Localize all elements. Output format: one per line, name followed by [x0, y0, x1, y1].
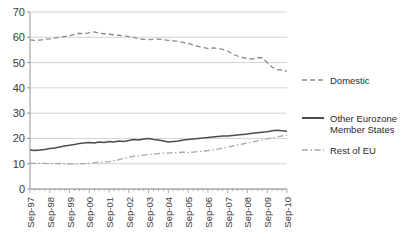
x-axis-tick-label: Sep-09	[262, 197, 273, 228]
chart-container: 010203040506070Sep-97Sep-98Sep-99Sep-00S…	[0, 0, 413, 244]
x-axis-tick-label: Sep-01	[104, 197, 115, 228]
x-axis-tick-label: Sep-00	[84, 197, 95, 228]
x-axis-tick-label: Sep-99	[65, 197, 76, 228]
y-axis-tick-label: 30	[13, 107, 25, 119]
y-axis-tick-label: 70	[13, 6, 25, 18]
x-axis-tick-label: Sep-02	[124, 197, 135, 228]
series-line-1	[30, 32, 287, 71]
y-axis-tick-label: 60	[13, 31, 25, 43]
x-axis-tick-label: Sep-07	[223, 197, 234, 228]
x-axis-tick-label: Sep-98	[45, 197, 56, 228]
series-line-2	[30, 130, 287, 150]
x-axis-tick-label: Sep-06	[203, 197, 214, 228]
x-axis-tick-label: Sep-03	[144, 197, 155, 228]
y-axis-tick-label: 0	[19, 183, 25, 195]
legend-label-1: Domestic	[330, 75, 370, 86]
y-axis-tick-label: 10	[13, 158, 25, 170]
x-axis-tick-label: Sep-10	[282, 197, 293, 228]
y-axis-tick-label: 40	[13, 82, 25, 94]
y-axis-tick-label: 50	[13, 57, 25, 69]
legend-label-3: Rest of EU	[330, 145, 376, 156]
legend-label-2: Other Eurozone	[330, 113, 397, 124]
legend-label-2-line2: Member States	[330, 124, 395, 135]
y-axis-tick-label: 20	[13, 132, 25, 144]
x-axis-tick-label: Sep-97	[25, 197, 36, 228]
x-axis-tick-label: Sep-04	[163, 197, 174, 228]
line-chart: 010203040506070Sep-97Sep-98Sep-99Sep-00S…	[0, 0, 413, 244]
x-axis-tick-label: Sep-05	[183, 197, 194, 228]
x-axis-tick-label: Sep-08	[242, 197, 253, 228]
